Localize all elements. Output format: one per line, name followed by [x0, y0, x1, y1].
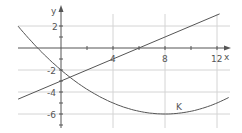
y-tick-label-neg2: -2: [47, 66, 56, 76]
y-tick-label-neg6: -6: [47, 110, 56, 120]
x-tick-label-8: 8: [162, 54, 168, 64]
y-axis-label: y: [51, 6, 57, 16]
curve-k-label: K: [176, 102, 183, 112]
y-axis-arrow-icon: [59, 5, 64, 12]
x-tick-label-12: 12: [211, 54, 222, 64]
x-axis-arrow-icon: [224, 46, 231, 51]
grid-vertical: [113, 14, 217, 128]
x-axis-label: x: [224, 52, 230, 62]
function-graph: x y 4 8 12 2 -2 -4 -6 K: [0, 0, 242, 133]
x-axis: [18, 46, 226, 50]
y-tick-label-neg4: -4: [47, 88, 56, 98]
y-tick-label-2: 2: [52, 22, 58, 32]
chart-canvas: x y 4 8 12 2 -2 -4 -6 K: [0, 0, 242, 133]
linear-function-line: [18, 14, 220, 99]
